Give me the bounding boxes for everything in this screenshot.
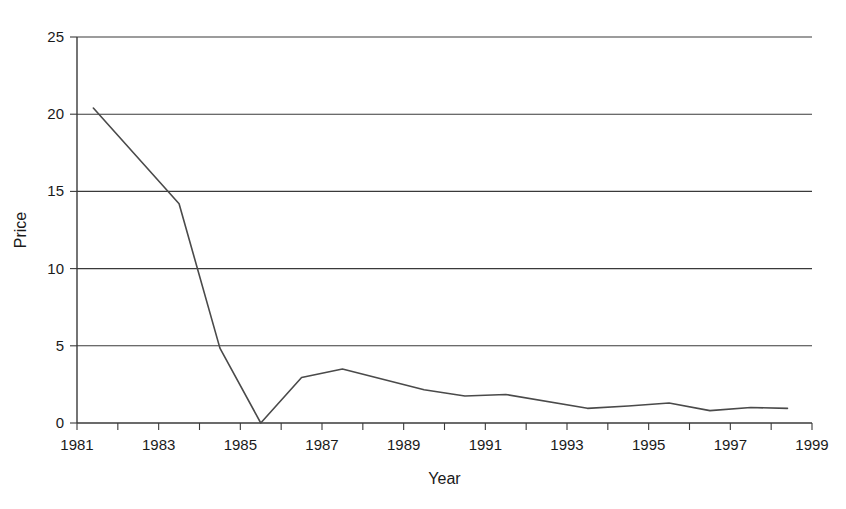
y-tick-label-20: 20 xyxy=(47,105,64,122)
y-tick-label-0: 0 xyxy=(56,414,64,431)
x-axis-title: Year xyxy=(428,470,461,487)
y-tick-labels-group: 0510152025 xyxy=(47,28,64,431)
x-tick-label-1991: 1991 xyxy=(469,436,502,453)
x-tick-label-1993: 1993 xyxy=(550,436,583,453)
x-tick-label-1985: 1985 xyxy=(224,436,257,453)
y-tick-label-5: 5 xyxy=(56,337,64,354)
chart-canvas: 0510152025 19811983198519871989199119931… xyxy=(0,0,846,509)
x-tick-label-1983: 1983 xyxy=(142,436,175,453)
y-tick-label-15: 15 xyxy=(47,182,64,199)
x-tick-labels-group: 1981198319851987198919911993199519971999 xyxy=(60,436,828,453)
y-axis-title: Price xyxy=(12,212,29,249)
y-tickmarks-group xyxy=(70,37,77,423)
gridlines-group xyxy=(77,37,812,346)
x-tick-label-1995: 1995 xyxy=(632,436,665,453)
x-tick-label-1997: 1997 xyxy=(714,436,747,453)
price-series-line xyxy=(93,108,787,423)
chart-svg: 0510152025 19811983198519871989199119931… xyxy=(0,0,846,509)
x-tick-label-1999: 1999 xyxy=(795,436,828,453)
x-tick-label-1981: 1981 xyxy=(60,436,93,453)
x-tick-label-1989: 1989 xyxy=(387,436,420,453)
x-tick-label-1987: 1987 xyxy=(305,436,338,453)
y-tick-label-25: 25 xyxy=(47,28,64,45)
line-chart: 0510152025 19811983198519871989199119931… xyxy=(0,0,846,509)
y-tick-label-10: 10 xyxy=(47,260,64,277)
x-tickmarks-group xyxy=(77,423,812,430)
